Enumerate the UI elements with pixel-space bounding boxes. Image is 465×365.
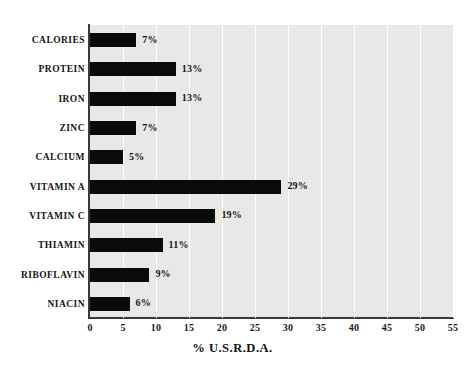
bar (90, 209, 215, 223)
gridline (387, 25, 388, 318)
x-tick-label: 45 (372, 322, 402, 333)
x-tick-label: 25 (240, 322, 270, 333)
value-label: 29% (287, 179, 308, 193)
bar (90, 180, 281, 194)
x-tick-label: 0 (75, 322, 105, 333)
x-axis-title: % U.S.R.D.A. (0, 341, 465, 356)
gridline (420, 25, 421, 318)
category-label: PROTEIN (0, 62, 85, 76)
bar (90, 62, 176, 76)
category-label: IRON (0, 92, 85, 106)
value-label: 5% (129, 150, 144, 164)
value-label: 13% (182, 91, 203, 105)
x-tick-label: 40 (339, 322, 369, 333)
gridline (288, 25, 289, 318)
x-tick-label: 30 (273, 322, 303, 333)
bar (90, 268, 149, 282)
gridline (255, 25, 256, 318)
bar (90, 121, 136, 135)
x-tick-label: 55 (438, 322, 465, 333)
category-label: NIACIN (0, 297, 85, 311)
bar (90, 238, 163, 252)
category-label: ZINC (0, 121, 85, 135)
value-label: 9% (155, 267, 170, 281)
value-label: 6% (136, 296, 151, 310)
category-label: VITAMIN A (0, 180, 85, 194)
bar (90, 297, 130, 311)
category-label: THIAMIN (0, 238, 85, 252)
x-tick-label: 10 (141, 322, 171, 333)
value-label: 19% (221, 208, 242, 222)
bar (90, 150, 123, 164)
x-tick-label: 5 (108, 322, 138, 333)
x-axis-line (88, 317, 454, 319)
gridline (321, 25, 322, 318)
category-label: CALORIES (0, 33, 85, 47)
value-label: 7% (142, 121, 157, 135)
x-tick-label: 50 (405, 322, 435, 333)
bar-chart: CALORIESPROTEINIRONZINCCALCIUMVITAMIN AV… (0, 0, 465, 365)
x-tick-label: 35 (306, 322, 336, 333)
gridline (222, 25, 223, 318)
category-label: VITAMIN C (0, 209, 85, 223)
value-label: 13% (182, 62, 203, 76)
x-tick-label: 20 (207, 322, 237, 333)
x-tick-label: 15 (174, 322, 204, 333)
category-label: CALCIUM (0, 150, 85, 164)
value-label: 11% (169, 238, 189, 252)
gridline (354, 25, 355, 318)
bar (90, 92, 176, 106)
value-label: 7% (142, 33, 157, 47)
bar (90, 33, 136, 47)
gridline (453, 25, 454, 318)
category-label: RIBOFLAVIN (0, 268, 85, 282)
